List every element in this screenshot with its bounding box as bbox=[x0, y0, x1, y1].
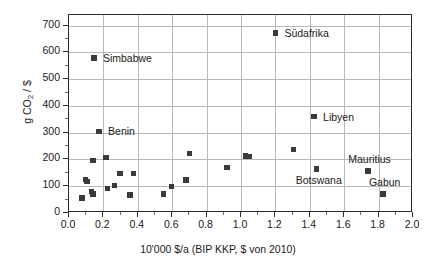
gridline-vertical bbox=[138, 15, 139, 211]
gridline-horizontal bbox=[69, 79, 411, 80]
data-point-libyen bbox=[311, 114, 317, 120]
data-point bbox=[246, 154, 252, 160]
y-axis-tick-label: 500 bbox=[16, 71, 60, 83]
y-axis-tick-label: 100 bbox=[16, 178, 60, 190]
x-axis-title: 10'000 $/a (BIP KKP, $ von 2010) bbox=[0, 243, 436, 255]
x-axis-tick-label: 2.0 bbox=[392, 218, 432, 230]
x-axis-tick bbox=[412, 212, 413, 217]
x-axis-tick bbox=[378, 212, 379, 217]
data-point-benin bbox=[96, 129, 102, 135]
data-point-südafrika bbox=[273, 30, 279, 36]
gridline-vertical bbox=[241, 15, 242, 211]
x-axis-minor-tick bbox=[292, 212, 293, 215]
data-point bbox=[291, 147, 297, 153]
x-axis-tick bbox=[274, 212, 275, 217]
data-point bbox=[131, 171, 137, 177]
y-axis-tick bbox=[63, 212, 68, 213]
y-axis-tick-label: 0 bbox=[16, 205, 60, 217]
x-axis-minor-tick bbox=[360, 212, 361, 215]
y-axis-tick-label: 200 bbox=[16, 151, 60, 163]
data-point bbox=[161, 191, 167, 197]
x-axis-tick bbox=[309, 212, 310, 217]
x-axis-tick bbox=[206, 212, 207, 217]
point-label-botswana: Botswana bbox=[296, 175, 342, 186]
x-axis-minor-tick bbox=[326, 212, 327, 215]
point-label-gabun: Gabun bbox=[369, 177, 401, 188]
x-axis-minor-tick bbox=[188, 212, 189, 215]
data-point-botswana bbox=[314, 166, 320, 172]
point-label-mauritius: Mauritius bbox=[348, 154, 391, 165]
data-point bbox=[84, 179, 90, 185]
data-point bbox=[90, 191, 96, 197]
x-axis-tick bbox=[102, 212, 103, 217]
gridline-vertical bbox=[172, 15, 173, 211]
gridline-horizontal bbox=[69, 106, 411, 107]
y-axis-tick-label: 600 bbox=[16, 44, 60, 56]
y-axis-tick-label: 400 bbox=[16, 98, 60, 110]
point-label-libyen: Libyen bbox=[323, 112, 354, 123]
x-axis-tick bbox=[68, 212, 69, 217]
data-point bbox=[117, 171, 123, 177]
x-axis-tick bbox=[171, 212, 172, 217]
point-label-südafrika: Südafrika bbox=[284, 28, 328, 39]
gridline-vertical bbox=[103, 15, 104, 211]
data-point bbox=[169, 184, 175, 190]
data-point bbox=[127, 192, 133, 198]
data-point bbox=[79, 195, 85, 201]
data-point-mauritius bbox=[365, 168, 371, 174]
y-axis-tick-label: 700 bbox=[16, 18, 60, 30]
data-point bbox=[187, 151, 193, 157]
plot-area: SimbabweBeninSüdafrikaLibyenBotswanaMaur… bbox=[68, 14, 412, 212]
point-label-simbabwe: Simbabwe bbox=[103, 53, 152, 64]
gridline-horizontal bbox=[69, 186, 411, 187]
x-axis-minor-tick bbox=[154, 212, 155, 215]
data-point bbox=[112, 183, 118, 189]
data-point-simbabwe bbox=[91, 55, 97, 61]
gridline-vertical bbox=[275, 15, 276, 211]
point-label-benin: Benin bbox=[108, 126, 135, 137]
x-axis-minor-tick bbox=[257, 212, 258, 215]
x-axis-tick bbox=[343, 212, 344, 217]
data-point bbox=[90, 158, 96, 164]
x-axis-minor-tick bbox=[395, 212, 396, 215]
y-axis-tick-label: 300 bbox=[16, 125, 60, 137]
data-point bbox=[103, 155, 109, 161]
data-point-gabun bbox=[380, 191, 386, 197]
gridline-horizontal bbox=[69, 26, 411, 27]
data-point bbox=[183, 177, 189, 183]
scatter-chart-figure: g CO2 / $ 10'000 $/a (BIP KKP, $ von 201… bbox=[0, 0, 436, 269]
data-point bbox=[224, 165, 230, 171]
x-axis-minor-tick bbox=[223, 212, 224, 215]
data-point bbox=[105, 186, 111, 192]
x-axis-tick bbox=[137, 212, 138, 217]
x-axis-tick bbox=[240, 212, 241, 217]
x-axis-minor-tick bbox=[120, 212, 121, 215]
x-axis-minor-tick bbox=[85, 212, 86, 215]
gridline-vertical bbox=[207, 15, 208, 211]
